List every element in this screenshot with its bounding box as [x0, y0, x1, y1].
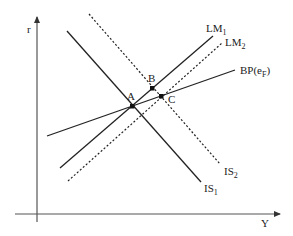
x-axis-label: Y [261, 217, 269, 229]
lm1-label: LM1 [206, 22, 227, 37]
point-b-label: B [148, 72, 155, 84]
bp-label: BP(eF) [240, 64, 270, 79]
islm-bp-diagram: r Y IS1 IS2 LM1 LM2 BP(eF) A B C [0, 0, 293, 236]
point-c-marker [159, 94, 164, 99]
point-c-label: C [168, 93, 175, 105]
lm1-curve [60, 36, 213, 168]
y-axis-label: r [27, 23, 31, 35]
is1-label: IS1 [204, 182, 218, 197]
point-a-label: A [127, 90, 135, 102]
is2-label: IS2 [224, 165, 238, 180]
point-a-marker [130, 104, 135, 109]
point-b-marker [150, 86, 155, 91]
lm2-label: LM2 [225, 36, 246, 51]
lm2-curve [68, 43, 222, 181]
bp-curve [47, 70, 235, 136]
